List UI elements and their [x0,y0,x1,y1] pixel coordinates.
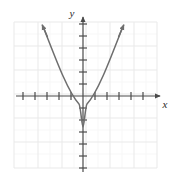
x-axis-label: x [162,98,168,110]
parabola-figure: y x [0,0,174,178]
y-axis-label: y [69,7,75,19]
coordinate-plane-svg: y x [0,0,174,178]
